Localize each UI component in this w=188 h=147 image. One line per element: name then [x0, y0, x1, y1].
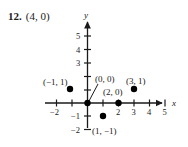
figure-container: 12.(4, 0) [0, 0, 188, 147]
point-1--1 [100, 113, 106, 119]
point-label-1--1: (1, −1) [92, 126, 117, 136]
y-tick-label-4: 4 [76, 45, 80, 55]
leader-line-origin-icon [89, 84, 98, 101]
y-tick-label-3: 3 [76, 58, 80, 68]
x-tick-label--2: −2 [50, 107, 59, 117]
y-tick-label-5: 5 [76, 31, 80, 41]
x-axis-label: x [172, 98, 176, 108]
point--1-1 [67, 86, 73, 92]
point-3-1 [131, 86, 137, 92]
coordinate-plane: x y −2 2 3 4 5 5 4 3 −1 −2 (−1, 1) (0, 0… [0, 0, 188, 147]
x-tick-label-2: 2 [116, 107, 120, 117]
point-label--1-1: (−1, 1) [43, 77, 68, 87]
x-tick-label-5: 5 [163, 107, 167, 117]
y-tick-label--2: −2 [71, 125, 80, 135]
y-tick-label--1: −1 [71, 111, 80, 121]
point-0-0 [84, 100, 90, 106]
y-axis-label: y [84, 10, 88, 20]
point-label-0-0: (0, 0) [95, 74, 115, 84]
point-label-2-0: (2, 0) [103, 87, 123, 97]
point-label-3-1: (3, 1) [126, 76, 146, 86]
coordinate-plane-svg [0, 0, 188, 147]
point-2-0 [115, 100, 121, 106]
x-tick-label-3: 3 [132, 107, 136, 117]
x-tick-label-4: 4 [147, 107, 151, 117]
